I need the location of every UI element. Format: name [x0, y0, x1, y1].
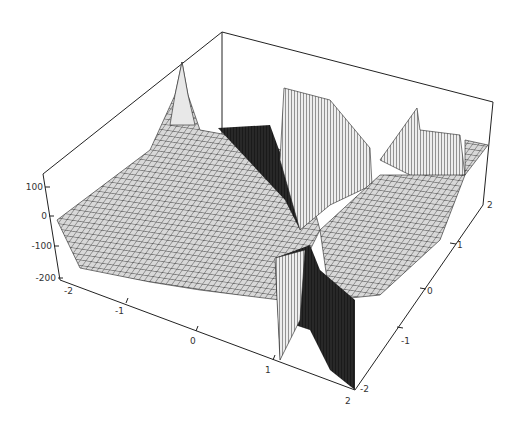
- z-tick-label: 0: [41, 211, 47, 221]
- y-tick-label: -1: [401, 336, 410, 346]
- y-tick-label: 1: [457, 240, 463, 250]
- y-tick-label: -2: [360, 384, 369, 394]
- x-tick-label: -1: [115, 306, 124, 316]
- x-tick-label: 2: [345, 396, 351, 406]
- y-tick-label: 0: [427, 286, 433, 296]
- z-tick-label: -200: [36, 273, 57, 283]
- z-axis: 100 0 -100 -200: [26, 182, 63, 283]
- x-tick-label: -2: [64, 286, 73, 296]
- z-tick-label: 100: [26, 182, 43, 192]
- x-tick-label: 1: [265, 365, 271, 375]
- z-tick-label: -100: [32, 241, 53, 251]
- x-tick-label: 0: [190, 336, 196, 346]
- surface-plot: 100 0 -100 -200 -2 -1 0 1 2 -2 -1 0 1 2: [0, 0, 520, 422]
- y-tick-label: 2: [487, 200, 493, 210]
